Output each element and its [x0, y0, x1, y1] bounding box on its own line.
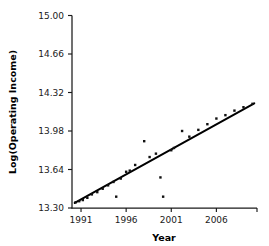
x-axis-tick-labels: 1991199620012006 — [70, 215, 229, 225]
data-point — [129, 169, 131, 171]
data-point — [82, 199, 84, 201]
data-point — [148, 156, 150, 158]
y-tick-label: 13.30 — [38, 203, 64, 213]
data-point — [115, 195, 117, 197]
x-tick-label: 2001 — [160, 215, 183, 225]
data-point — [74, 201, 76, 203]
data-point — [170, 149, 172, 151]
x-tick-label: 1996 — [115, 215, 138, 225]
data-point — [134, 164, 136, 166]
data-point — [162, 195, 164, 197]
y-tick-label: 14.66 — [38, 49, 64, 59]
data-point — [155, 152, 157, 154]
y-axis-title: Log(Operating Income) — [7, 50, 18, 174]
y-tick-label: 13.64 — [38, 165, 64, 175]
data-point — [91, 193, 93, 195]
data-point — [107, 184, 109, 186]
data-point — [143, 140, 145, 142]
data-point — [112, 181, 114, 183]
scatter-plot: 13.3013.6413.9814.3214.6615.00 Log(Opera… — [0, 0, 269, 246]
x-tick-label: 1991 — [70, 215, 93, 225]
y-tick-label: 14.32 — [38, 88, 64, 98]
y-tick-label: 13.98 — [38, 126, 64, 136]
x-tick-label: 2006 — [205, 215, 228, 225]
data-point — [120, 177, 122, 179]
chart-container: 13.3013.6413.9814.3214.6615.00 Log(Opera… — [0, 0, 269, 246]
data-point — [181, 130, 183, 132]
data-point — [96, 191, 98, 193]
data-point — [125, 171, 127, 173]
data-point — [188, 135, 190, 137]
data-point — [224, 114, 226, 116]
data-point — [233, 109, 235, 111]
x-axis-title: Year — [151, 232, 176, 243]
data-point — [86, 197, 88, 199]
data-point — [159, 176, 161, 178]
data-point — [173, 147, 175, 149]
data-point — [78, 200, 80, 202]
data-point — [215, 117, 217, 119]
x-axis-group: 1991199620012006 Year — [70, 208, 257, 243]
data-point — [101, 188, 103, 190]
data-point — [206, 123, 208, 125]
y-axis-group: 13.3013.6413.9814.3214.6615.00 Log(Opera… — [7, 11, 72, 214]
y-tick-label: 15.00 — [38, 11, 64, 21]
data-point — [242, 106, 244, 108]
data-point — [251, 103, 253, 105]
y-axis-tick-labels: 13.3013.6413.9814.3214.6615.00 — [38, 11, 64, 214]
data-point — [197, 129, 199, 131]
